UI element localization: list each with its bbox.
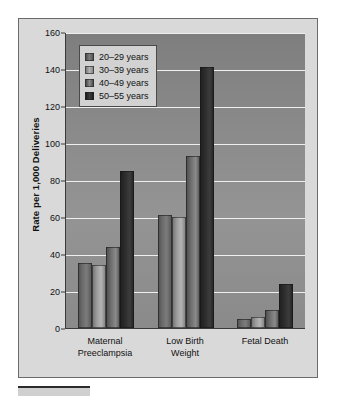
legend-item[interactable]: 20–29 years	[85, 50, 149, 63]
bar[interactable]	[172, 217, 186, 328]
plot-frame: 020406080100120140160 20–29 years30–39 y…	[65, 33, 305, 329]
x-axis-label: Low BirthWeight	[145, 335, 225, 359]
y-tick-mark	[61, 181, 65, 182]
y-tick-mark	[61, 33, 65, 34]
legend-item-label: 40–49 years	[99, 78, 149, 88]
legend-item-label: 50–55 years	[99, 91, 149, 101]
x-axis-labels: MaternalPreeclampsiaLow BirthWeightFetal…	[65, 335, 305, 359]
x-axis-label-line: Weight	[145, 347, 225, 359]
x-axis-label-line: Low Birth	[145, 335, 225, 347]
bar-group	[225, 33, 305, 328]
bar[interactable]	[158, 215, 172, 328]
chart-legend: 20–29 years30–39 years40–49 years50–55 y…	[79, 45, 157, 107]
legend-swatch-icon	[85, 92, 94, 100]
bar[interactable]	[92, 265, 106, 328]
y-tick-mark	[61, 144, 65, 145]
y-tick-mark	[61, 107, 65, 108]
y-tick-mark	[61, 218, 65, 219]
caption-stub	[18, 386, 90, 396]
bar[interactable]	[251, 317, 265, 328]
legend-item[interactable]: 50–55 years	[85, 89, 149, 102]
x-axis-label: MaternalPreeclampsia	[65, 335, 145, 359]
legend-swatch-icon	[85, 66, 94, 74]
bar[interactable]	[237, 319, 251, 328]
legend-item-label: 20–29 years	[99, 52, 149, 62]
y-axis-title: Rate per 1,000 Deliveries	[30, 85, 41, 265]
bar[interactable]	[106, 247, 120, 328]
y-tick-mark	[61, 329, 65, 330]
bar[interactable]	[279, 284, 293, 328]
bar[interactable]	[200, 67, 214, 328]
legend-swatch-icon	[85, 79, 94, 87]
bar[interactable]	[186, 156, 200, 328]
legend-item[interactable]: 30–39 years	[85, 63, 149, 76]
y-tick-mark	[61, 292, 65, 293]
bar[interactable]	[78, 263, 92, 328]
legend-item[interactable]: 40–49 years	[85, 76, 149, 89]
y-tick-mark	[61, 70, 65, 71]
bar[interactable]	[120, 171, 134, 328]
y-tick-mark	[61, 255, 65, 256]
legend-item-label: 30–39 years	[99, 65, 149, 75]
legend-swatch-icon	[85, 53, 94, 61]
x-axis-label: Fetal Death	[225, 335, 305, 359]
x-axis-label-line: Fetal Death	[225, 335, 305, 347]
bar-group	[146, 33, 226, 328]
figure-panel: Rate per 1,000 Deliveries 02040608010012…	[18, 18, 318, 378]
bar[interactable]	[265, 310, 279, 329]
x-axis-label-line: Preeclampsia	[65, 347, 145, 359]
x-axis-label-line: Maternal	[65, 335, 145, 347]
